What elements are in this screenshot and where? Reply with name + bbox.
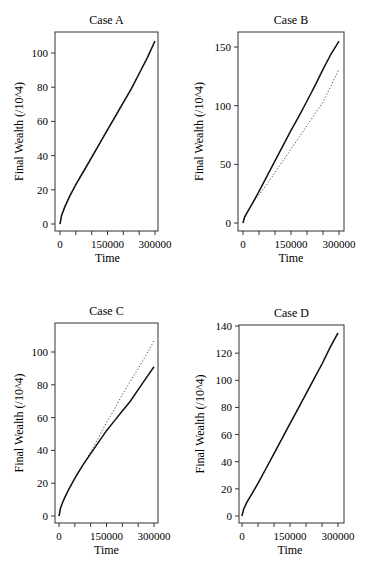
y-tick-label: 40 [37, 150, 49, 162]
x-tick-label: 300000 [138, 530, 172, 542]
y-axis-label: Final Wealth (/10^4) [12, 373, 26, 472]
x-tick-label: 300000 [323, 238, 357, 250]
x-tick-label: 0 [240, 238, 246, 250]
x-tick-label: 0 [56, 530, 62, 542]
panel-title: Case B [274, 13, 308, 27]
panel-case-c: Case C0150000300000Time020406080100Final… [12, 304, 171, 557]
x-tick-label: 150000 [274, 530, 308, 542]
figure: Case A0150000300000Time020406080100Final… [0, 0, 370, 574]
y-tick-label: 60 [37, 115, 49, 127]
y-tick-label: 50 [220, 158, 232, 170]
y-tick-label: 80 [37, 379, 49, 391]
series-dotted-line [60, 41, 155, 224]
y-tick-label: 60 [37, 412, 49, 424]
series-solid-line [60, 41, 155, 224]
series-solid-line [242, 333, 338, 516]
panel-case-a: Case A0150000300000Time020406080100Final… [12, 13, 172, 265]
panel-title: Case A [89, 13, 124, 27]
y-tick-label: 100 [32, 346, 49, 358]
y-tick-label: 40 [221, 456, 233, 468]
y-tick-label: 40 [37, 444, 49, 456]
y-tick-label: 140 [216, 320, 233, 332]
y-tick-label: 100 [32, 47, 49, 59]
y-tick-label: 120 [216, 347, 233, 359]
panel-case-d: Case D0150000300000Time02040608010012014… [193, 306, 355, 557]
y-tick-label: 0 [226, 217, 232, 229]
y-tick-label: 80 [37, 81, 49, 93]
series-dotted-line [59, 341, 154, 517]
x-tick-label: 0 [239, 530, 245, 542]
y-tick-label: 20 [37, 477, 49, 489]
x-axis-label: Time [279, 251, 304, 265]
x-tick-label: 300000 [139, 238, 173, 250]
plot-frame [55, 323, 158, 523]
panel-case-b: Case B0150000300000Time050100150Final We… [192, 13, 356, 265]
y-tick-label: 150 [215, 41, 232, 53]
y-tick-label: 100 [216, 374, 233, 386]
y-tick-label: 80 [221, 401, 233, 413]
series-dotted-line [243, 69, 339, 223]
y-tick-label: 20 [37, 184, 49, 196]
y-tick-label: 0 [43, 510, 49, 522]
x-axis-label: Time [94, 543, 119, 557]
x-axis-label: Time [95, 251, 120, 265]
y-tick-label: 0 [43, 218, 49, 230]
plot-frame [239, 325, 344, 523]
x-tick-label: 150000 [91, 238, 125, 250]
panel-title: Case C [89, 304, 123, 318]
series-solid-line [59, 367, 154, 516]
x-tick-label: 150000 [90, 530, 124, 542]
panel-title: Case D [274, 306, 309, 320]
y-axis-label: Final Wealth (/10^4) [12, 82, 26, 181]
y-tick-label: 100 [215, 100, 232, 112]
x-tick-label: 300000 [322, 530, 356, 542]
y-tick-label: 60 [221, 429, 233, 441]
x-axis-label: Time [278, 543, 303, 557]
x-tick-label: 150000 [275, 238, 309, 250]
series-solid-line [243, 41, 339, 223]
y-axis-label: Final Wealth (/10^4) [193, 374, 207, 473]
y-tick-label: 0 [227, 510, 233, 522]
y-tick-label: 20 [221, 483, 233, 495]
y-axis-label: Final Wealth (/10^4) [192, 82, 206, 181]
x-tick-label: 0 [57, 238, 63, 250]
